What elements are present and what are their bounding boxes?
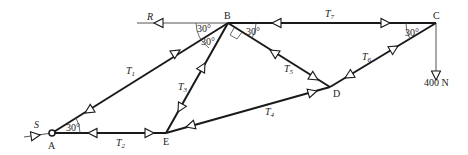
arrow-T4-E-icon	[186, 120, 196, 129]
angle-label-B-lower: 30°	[201, 36, 215, 47]
angle-label-B-right: 30°	[246, 26, 260, 37]
arrow-T7-C-icon	[381, 19, 390, 28]
angle-label-A: 30°	[66, 122, 80, 133]
member-T3	[166, 23, 228, 133]
force-label-S: S	[34, 119, 39, 130]
joint-label-E: E	[163, 136, 169, 147]
arrowheads	[30, 19, 440, 141]
angle-label-B-upper: 30°	[197, 23, 211, 34]
arrow-T6-C-icon	[388, 46, 398, 54]
arrow-T7-B-icon	[272, 19, 281, 28]
pin-A-icon	[49, 130, 55, 136]
arrow-T3-B-icon	[197, 63, 205, 73]
arrow-R-icon	[154, 19, 163, 28]
arrow-T2-A-icon	[88, 129, 97, 138]
member-label-T6: T6	[362, 51, 372, 64]
member-label-T3: T3	[178, 81, 188, 94]
force-label-R: R	[146, 11, 153, 22]
member-label-T7: T7	[325, 8, 335, 21]
arrow-T3-E-icon	[178, 102, 186, 112]
truss-diagram: A B C D E T1 T2 T3 T4 T5 T6 T7 R S 400 N…	[0, 0, 468, 155]
arrow-T4-D-icon	[307, 89, 317, 98]
member-label-T5: T5	[284, 63, 294, 76]
arrow-T5-B-icon	[270, 50, 280, 59]
member-label-T1: T1	[126, 65, 135, 78]
arrow-T5-D-icon	[308, 71, 318, 80]
member-label-T2: T2	[116, 137, 126, 150]
arrow-T1-A-icon	[85, 104, 95, 113]
force-label-load: 400 N	[424, 77, 449, 88]
arrow-T2-E-icon	[145, 129, 154, 138]
angle-label-C: 30°	[405, 27, 419, 38]
joint-label-A: A	[48, 140, 56, 151]
member-label-T4: T4	[265, 106, 275, 119]
arrow-S-icon	[30, 132, 40, 141]
joint-label-B: B	[224, 10, 231, 21]
arrow-T6-D-icon	[345, 70, 355, 78]
joint-label-D: D	[333, 88, 340, 99]
joint-label-C: C	[433, 10, 440, 21]
